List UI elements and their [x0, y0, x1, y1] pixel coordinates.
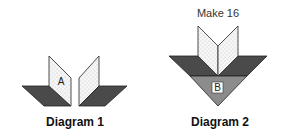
diagram-1-caption: Diagram 1	[46, 115, 104, 129]
quilt-diagrams: A Diagram 1 B Make 16 Diagram 2	[0, 0, 282, 137]
diagram-2: B Make 16 Diagram 2	[169, 7, 267, 129]
panel-a-label: A	[58, 76, 65, 87]
diagram-1: A Diagram 1	[22, 56, 127, 129]
make-16-note: Make 16	[197, 7, 239, 19]
diagram-2-caption: Diagram 2	[191, 115, 249, 129]
label-b: B	[214, 82, 221, 93]
